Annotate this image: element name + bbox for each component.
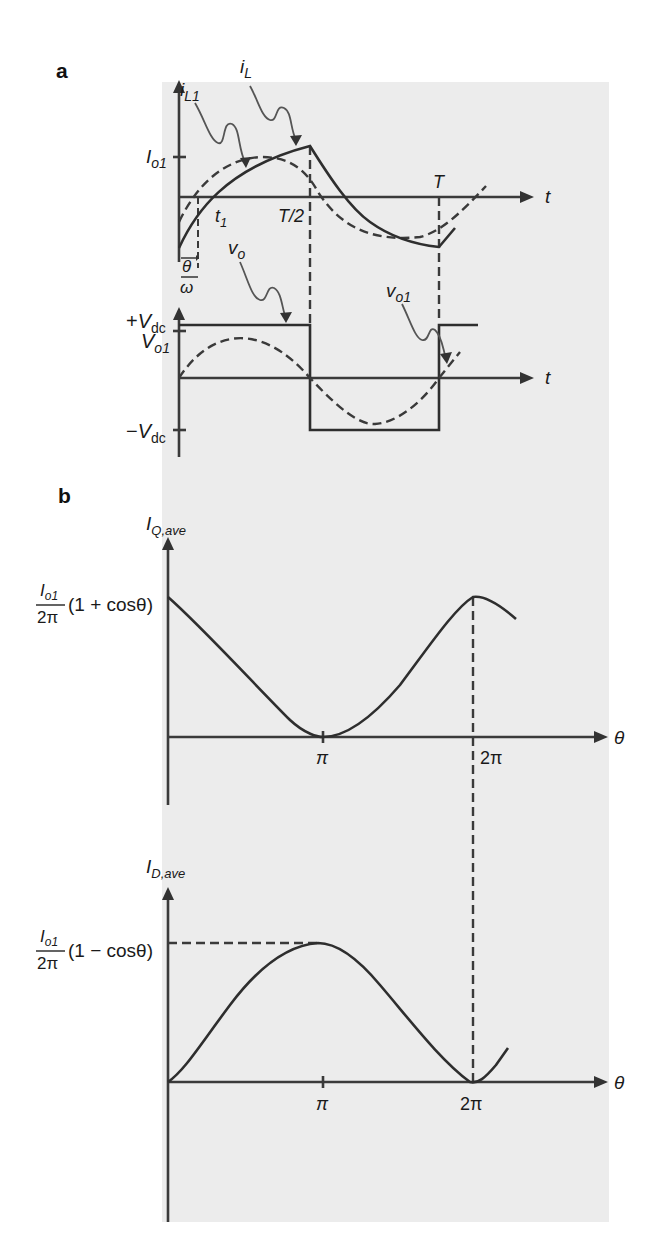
d-peak-numerator: Io1 [40, 927, 58, 949]
t-axis-label: t [545, 186, 551, 207]
d-two-pi-label: 2π [460, 1094, 482, 1114]
q-pi-label: π [316, 748, 329, 768]
neg-vdc-label: −Vdc [126, 420, 166, 446]
phase-numerator: θ [182, 257, 192, 276]
phase-denominator: ω [180, 278, 193, 297]
q-theta-label: θ [614, 727, 625, 748]
q-peak-denominator: 2π [37, 608, 58, 627]
d-pi-label: π [316, 1094, 329, 1114]
q-two-pi-label: 2π [480, 748, 502, 768]
d-peak-denominator: 2π [37, 954, 58, 973]
d-theta-label: θ [614, 1072, 625, 1093]
i-L-label: iL [240, 56, 252, 81]
voltage-t-axis-label: t [545, 367, 551, 388]
d-peak-expression: (1 − cosθ) [68, 940, 153, 961]
panel-a-tag: a [56, 59, 68, 82]
q-peak-numerator: Io1 [40, 581, 58, 603]
q-peak-expression: (1 + cosθ) [68, 594, 153, 615]
half-period-label: T/2 [278, 206, 304, 226]
panel-b-tag: b [58, 484, 71, 507]
figure-canvas: a θ ω Io1 t1 T/2 T t iL1 iL [0, 0, 661, 1253]
